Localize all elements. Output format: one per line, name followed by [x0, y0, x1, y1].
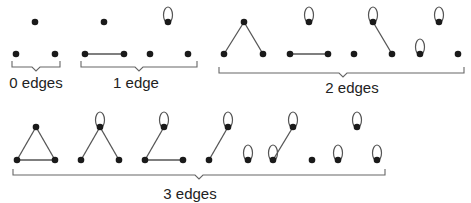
vertex — [287, 51, 294, 58]
vertex — [33, 124, 40, 131]
vertex — [225, 124, 232, 131]
vertex — [161, 124, 168, 131]
group-label: 3 edges — [163, 185, 216, 202]
vertex — [270, 157, 277, 164]
vertex — [78, 157, 85, 164]
vertex — [121, 51, 128, 58]
edge — [224, 22, 244, 54]
edge — [244, 22, 263, 54]
vertex — [180, 157, 187, 164]
vertex — [185, 51, 192, 58]
vertex — [206, 157, 213, 164]
vertex — [260, 51, 267, 58]
graph-g1b — [147, 7, 192, 57]
group-label: 0 edges — [9, 74, 62, 91]
vertex — [325, 51, 332, 58]
group-bracket — [12, 61, 60, 71]
vertex — [455, 51, 462, 58]
vertex — [147, 51, 154, 58]
graph-g2b — [287, 7, 332, 57]
edge — [373, 22, 392, 54]
vertex — [52, 51, 59, 58]
vertex — [241, 19, 248, 26]
vertex — [13, 51, 20, 58]
vertex — [101, 19, 108, 26]
graph-g3c — [142, 112, 187, 163]
edge — [17, 127, 36, 160]
vertex — [351, 51, 358, 58]
graph-g3d — [206, 112, 253, 163]
vertex — [370, 19, 377, 26]
edge — [100, 127, 119, 160]
group-bracket — [81, 61, 197, 71]
vertex — [245, 157, 252, 164]
vertex — [290, 124, 297, 131]
edge — [145, 127, 164, 160]
group-bracket — [13, 169, 385, 179]
graph-g3b — [78, 112, 123, 163]
vertex — [417, 51, 424, 58]
edge — [81, 127, 100, 160]
vertex — [221, 51, 228, 58]
vertex — [309, 157, 316, 164]
edge — [209, 127, 228, 160]
graph-g1a — [82, 19, 128, 58]
graph-g2a — [221, 19, 267, 58]
vertex — [97, 124, 104, 131]
vertex — [116, 157, 123, 164]
vertex — [165, 19, 172, 26]
vertex — [354, 124, 361, 131]
graph-g2d — [416, 7, 462, 57]
vertex — [32, 19, 39, 26]
vertex — [374, 157, 381, 164]
group-label: 1 edge — [113, 74, 159, 91]
edge — [36, 127, 55, 160]
graph-g2c — [351, 7, 396, 57]
vertex — [142, 157, 149, 164]
vertex — [82, 51, 89, 58]
graph-g3e — [269, 112, 316, 163]
group-label: 2 edges — [325, 79, 378, 96]
vertex — [335, 157, 342, 164]
group-bracket — [219, 67, 464, 77]
vertex — [436, 19, 443, 26]
vertex — [14, 157, 21, 164]
edge — [273, 127, 293, 160]
vertex — [52, 157, 59, 164]
graph-g3a — [14, 124, 59, 164]
graph-g3f — [334, 112, 382, 163]
vertex — [389, 51, 396, 58]
vertex — [306, 19, 313, 26]
graph-enumeration-diagram — [0, 0, 471, 203]
graph-g0 — [13, 19, 59, 58]
